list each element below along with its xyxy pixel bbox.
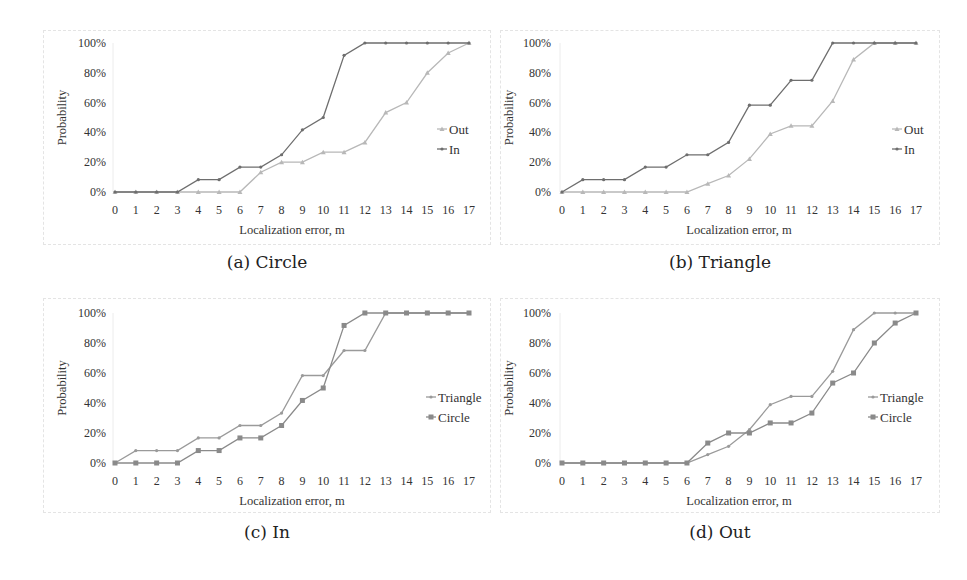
- y-tick-label: 60%: [529, 366, 551, 380]
- chart-a-plot: 0%20%40%60%80%100%0123456789101112131415…: [44, 31, 492, 246]
- y-tick-label: 40%: [529, 125, 551, 139]
- chart-panel-b: 0%20%40%60%80%100%0123456789101112131415…: [500, 30, 940, 245]
- x-tick-label: 16: [442, 474, 454, 488]
- dot-marker: [322, 374, 325, 377]
- chart-panel-c: 0%20%40%60%80%100%0123456789101112131415…: [43, 298, 491, 513]
- x-tick-label: 10: [317, 474, 329, 488]
- square-marker: [643, 461, 648, 466]
- x-axis-title: Localization error, m: [686, 223, 792, 237]
- square-marker: [809, 411, 814, 416]
- x-tick-label: 15: [868, 203, 880, 217]
- dot-marker: [727, 141, 730, 144]
- dot-marker: [685, 153, 688, 156]
- y-tick-label: 20%: [529, 155, 551, 169]
- dot-marker: [405, 41, 408, 44]
- x-axis-title: Localization error, m: [239, 494, 345, 508]
- square-marker: [893, 321, 898, 326]
- dot-marker: [176, 190, 179, 193]
- dot-marker: [155, 190, 158, 193]
- dot-marker: [706, 153, 709, 156]
- square-marker: [342, 323, 347, 328]
- triangle-marker: [830, 98, 835, 103]
- legend-item-in: In: [437, 142, 460, 157]
- legend-item-in: In: [892, 142, 915, 157]
- y-axis-title: Probability: [502, 89, 516, 145]
- legend-item-out: Out: [437, 122, 469, 137]
- x-tick-label: 8: [279, 203, 285, 217]
- x-tick-label: 10: [764, 203, 776, 217]
- y-tick-label: 0%: [535, 185, 551, 199]
- square-marker: [425, 311, 430, 316]
- square-marker: [705, 441, 710, 446]
- x-tick-label: 1: [580, 203, 586, 217]
- legend-label: Circle: [438, 410, 470, 425]
- dot-marker: [852, 328, 855, 331]
- y-axis-title: Probability: [55, 359, 69, 415]
- x-tick-label: 2: [601, 474, 607, 488]
- x-tick-label: 17: [910, 474, 922, 488]
- square-marker: [830, 381, 835, 386]
- legend-item-out: Out: [892, 122, 924, 137]
- dot-marker: [363, 41, 366, 44]
- square-marker: [300, 398, 305, 403]
- square-marker: [684, 461, 689, 466]
- dot-marker: [894, 41, 897, 44]
- square-marker: [279, 423, 284, 428]
- series-circle: [113, 311, 472, 466]
- x-tick-label: 11: [338, 474, 350, 488]
- x-tick-label: 11: [338, 203, 350, 217]
- dot-marker: [831, 41, 834, 44]
- dot-marker: [322, 116, 325, 119]
- x-tick-label: 12: [806, 203, 818, 217]
- x-tick-label: 3: [174, 474, 180, 488]
- x-tick-label: 6: [684, 474, 690, 488]
- y-tick-label: 80%: [529, 336, 551, 350]
- dot-marker: [280, 153, 283, 156]
- x-tick-label: 7: [705, 474, 711, 488]
- y-tick-label: 80%: [84, 66, 106, 80]
- dot-marker: [789, 395, 792, 398]
- dot-marker: [644, 166, 647, 169]
- y-tick-label: 100%: [78, 306, 106, 320]
- y-tick-label: 20%: [84, 155, 106, 169]
- y-tick-label: 40%: [84, 396, 106, 410]
- dot-marker: [301, 128, 304, 131]
- dot-marker: [342, 349, 345, 352]
- x-tick-label: 0: [112, 203, 118, 217]
- y-tick-label: 60%: [84, 366, 106, 380]
- dot-marker: [238, 166, 241, 169]
- dot-marker: [363, 349, 366, 352]
- x-tick-label: 4: [642, 203, 648, 217]
- x-tick-label: 6: [237, 474, 243, 488]
- x-tick-label: 16: [442, 203, 454, 217]
- caption-b: (b) Triangle: [500, 252, 940, 272]
- legend-label: Out: [449, 122, 469, 137]
- y-tick-label: 20%: [529, 426, 551, 440]
- caption-a: (a) Circle: [43, 252, 491, 272]
- x-tick-label: 17: [463, 474, 475, 488]
- dot-marker: [259, 166, 262, 169]
- square-marker: [362, 311, 367, 316]
- x-tick-label: 14: [848, 203, 860, 217]
- x-tick-label: 8: [726, 203, 732, 217]
- x-tick-label: 11: [785, 474, 797, 488]
- x-tick-label: 5: [663, 203, 669, 217]
- y-tick-label: 80%: [84, 336, 106, 350]
- square-marker: [175, 461, 180, 466]
- x-tick-label: 0: [559, 474, 565, 488]
- legend-item-circle: Circle: [426, 410, 470, 425]
- y-axis-title: Probability: [55, 89, 69, 145]
- x-tick-label: 5: [216, 203, 222, 217]
- x-tick-label: 17: [463, 203, 475, 217]
- x-tick-label: 1: [133, 203, 139, 217]
- dot-marker: [706, 453, 709, 456]
- dot-marker: [895, 147, 898, 150]
- square-marker: [429, 415, 434, 420]
- dot-marker: [384, 41, 387, 44]
- x-tick-label: 1: [133, 474, 139, 488]
- dot-marker: [623, 178, 626, 181]
- square-marker: [664, 461, 669, 466]
- x-tick-label: 15: [868, 474, 880, 488]
- dot-marker: [871, 395, 874, 398]
- legend-label: In: [449, 142, 460, 157]
